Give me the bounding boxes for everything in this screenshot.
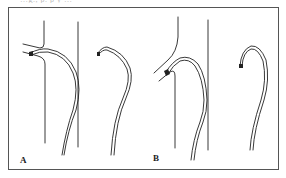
panel-a-catheter-tip <box>29 51 33 56</box>
panel-a-free-tip <box>97 52 100 56</box>
panel-b-free-tip <box>239 64 243 68</box>
catheter-diagram <box>0 0 286 178</box>
panel-label-b: B <box>153 153 159 163</box>
panel-a-catheter-shape <box>98 47 131 155</box>
panel-b-catheter-in-vessel <box>166 57 207 160</box>
panel-a-catheter-in-vessel <box>30 49 79 155</box>
panel-b-catheter-tip <box>164 69 170 76</box>
panel-b-catheter-shape <box>240 46 268 150</box>
panel-label-a: A <box>20 155 27 165</box>
